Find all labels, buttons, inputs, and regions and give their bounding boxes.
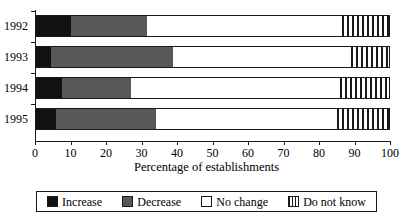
bar-segment-donotknow	[340, 77, 390, 99]
x-axis-title: Percentage of establishments	[0, 160, 413, 175]
y-axis-tick	[31, 73, 36, 74]
x-axis-tick-label: 20	[86, 146, 126, 160]
bar-row	[0, 46, 413, 68]
legend-label: Decrease	[137, 195, 181, 209]
x-axis-tick-label: 0	[15, 146, 55, 160]
bar-row	[0, 77, 413, 99]
bar-segment-donotknow	[342, 15, 390, 37]
x-axis-tick	[355, 141, 356, 145]
legend-item: Increase	[47, 195, 102, 209]
y-axis-label-1994: 1994	[0, 81, 31, 95]
stacked-bar-chart: 1992199319941995 0102030405060708090100 …	[0, 0, 413, 222]
x-axis-tick-label: 30	[122, 146, 162, 160]
chart-legend: IncreaseDecreaseNo changeDo not know	[36, 191, 377, 212]
bar-segment-nochange	[173, 46, 351, 68]
x-axis-tick	[390, 141, 391, 145]
x-axis-tick	[71, 141, 72, 145]
x-axis-tick	[319, 141, 320, 145]
legend-item: Decrease	[122, 195, 181, 209]
bar-segment-decrease	[71, 15, 147, 37]
bar-segment-decrease	[56, 108, 155, 130]
bar-segment-increase	[35, 46, 51, 68]
x-axis-tick	[142, 141, 143, 145]
bar-row	[0, 15, 413, 37]
x-axis-tick-label: 40	[157, 146, 197, 160]
x-axis-tick	[35, 141, 36, 145]
x-axis-tick-label: 70	[264, 146, 304, 160]
legend-item: Do not know	[288, 195, 366, 209]
x-axis-tick-label: 50	[193, 146, 233, 160]
y-axis-tick	[31, 42, 36, 43]
bar-segment-nochange	[131, 77, 340, 99]
legend-label: No change	[216, 195, 268, 209]
bar-segment-increase	[35, 15, 71, 37]
y-axis-label-1992: 1992	[0, 19, 31, 33]
y-axis-label-1995: 1995	[0, 112, 31, 126]
legend-label: Do not know	[303, 195, 366, 209]
bar-row	[0, 108, 413, 130]
legend-swatch-increase-icon	[47, 196, 58, 207]
y-axis-tick	[31, 11, 36, 12]
bar-segment-nochange	[156, 108, 337, 130]
bar-segment-nochange	[147, 15, 342, 37]
legend-item: No change	[201, 195, 268, 209]
legend-swatch-decrease-icon	[122, 196, 133, 207]
y-axis-label-1993: 1993	[0, 50, 31, 64]
bar-segment-donotknow	[351, 46, 390, 68]
x-axis-tick-label: 80	[299, 146, 339, 160]
x-axis-tick	[213, 141, 214, 145]
x-axis-tick	[106, 141, 107, 145]
legend-swatch-nochange-icon	[201, 196, 212, 207]
x-axis-tick-label: 90	[335, 146, 375, 160]
x-axis-tick-label: 100	[370, 146, 410, 160]
x-axis-tick-label: 10	[51, 146, 91, 160]
bar-segment-increase	[35, 108, 56, 130]
bar-segment-donotknow	[337, 108, 390, 130]
bar-segment-decrease	[62, 77, 131, 99]
x-axis-tick-label: 60	[228, 146, 268, 160]
x-axis-tick	[177, 141, 178, 145]
x-axis-tick	[248, 141, 249, 145]
x-axis-tick	[284, 141, 285, 145]
legend-label: Increase	[62, 195, 102, 209]
y-axis-tick	[31, 104, 36, 105]
bar-segment-decrease	[51, 46, 173, 68]
bar-segment-increase	[35, 77, 62, 99]
legend-swatch-donotknow-icon	[288, 196, 299, 207]
